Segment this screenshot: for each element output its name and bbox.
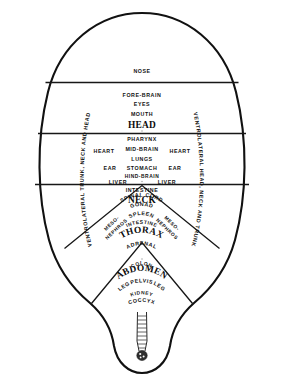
label-heart-right: HEART: [170, 148, 191, 154]
label-mouth: MOUTH: [131, 111, 153, 117]
label-mid-brain: MID-BRAIN: [125, 146, 158, 152]
label-eyes: EYES: [134, 101, 150, 107]
label-liver-right: LIVER: [158, 179, 176, 185]
label-liver-left: LIVER: [109, 179, 127, 185]
label-heart-left: HEART: [94, 148, 115, 154]
fate-map-diagram: NOSE FORE-BRAIN EYES MOUTH HEAD PHARYNX …: [0, 0, 283, 383]
label-pharynx: PHARYNX: [127, 136, 157, 142]
label-fore-brain: FORE-BRAIN: [123, 92, 162, 98]
guide-dot-thorax: [141, 258, 142, 259]
label-ear-right: EAR: [169, 165, 182, 171]
label-lungs: LUNGS: [131, 156, 152, 162]
fate-map-figure: NOSE FORE-BRAIN EYES MOUTH HEAD PHARYNX …: [0, 0, 283, 383]
label-stomach: STOMACH: [127, 165, 158, 171]
region-label-head: HEAD: [128, 120, 156, 130]
label-nose: NOSE: [133, 68, 150, 74]
guide-dot-head: [141, 130, 142, 131]
guide-dot-neck: [141, 181, 142, 182]
label-hind-brain: HIND-BRAIN: [125, 174, 160, 179]
label-ear-left: EAR: [104, 165, 117, 171]
